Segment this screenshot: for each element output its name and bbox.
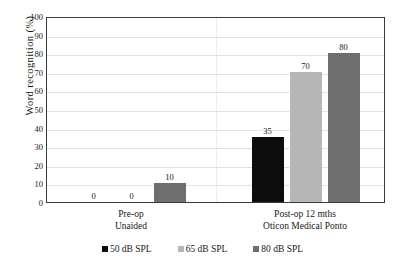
x-category-label-postop-line2: Oticon Medical Ponto [263,221,347,233]
y-axis-tick-70: 70 [1,69,43,78]
bar-80-db-spl-group0 [154,183,186,202]
legend-label: 80 dB SPL [261,244,303,254]
x-category-label-preop: Pre-op Unaided [115,209,147,232]
y-axis-tick-20: 20 [1,162,43,171]
x-category-label-preop-line2: Unaided [115,221,147,233]
y-axis-tick-80: 80 [1,50,43,59]
bar-50-db-spl-group1 [252,137,284,202]
x-category-label-postop-line1: Post-op 12 mths [263,209,347,221]
category-divider [216,18,217,202]
y-axis-tick-10: 10 [1,180,43,189]
y-axis-tick-100: 100 [1,13,43,22]
gridline-90 [47,37,384,38]
plot-inner: 0010357080 [47,18,384,202]
bar-value-label: 10 [165,173,174,182]
legend-item-65-db-spl[interactable]: 65 dB SPL [178,244,228,254]
x-category-label-preop-line1: Pre-op [115,209,147,221]
bar-65-db-spl-group1 [290,72,322,202]
legend-label: 50 dB SPL [110,244,152,254]
bar-value-label: 0 [129,192,133,201]
legend-label: 65 dB SPL [186,244,228,254]
legend-item-80-db-spl[interactable]: 80 dB SPL [253,244,303,254]
y-axis-tick-40: 40 [1,124,43,133]
legend-swatch-icon [253,246,259,252]
legend-swatch-icon [178,246,184,252]
bar-value-label: 70 [301,62,310,71]
y-axis-tick-60: 60 [1,87,43,96]
y-axis-tick-0: 0 [1,199,43,208]
bar-value-label: 35 [263,127,272,136]
legend-swatch-icon [102,246,108,252]
x-category-label-postop: Post-op 12 mths Oticon Medical Ponto [263,209,347,232]
y-axis-tick-labels: 1009080706050403020100 [0,17,43,203]
y-axis-tick-90: 90 [1,31,43,40]
word-recognition-bar-chart: Word recognition (%) 1009080706050403020… [0,0,405,269]
chart-legend: 50 dB SPL65 dB SPL80 dB SPL [0,244,405,254]
bar-value-label: 0 [91,192,95,201]
bar-value-label: 80 [339,43,348,52]
bar-80-db-spl-group1 [328,53,360,202]
y-axis-tick-30: 30 [1,143,43,152]
plot-area: 0010357080 [46,17,385,203]
y-axis-tick-50: 50 [1,106,43,115]
legend-item-50-db-spl[interactable]: 50 dB SPL [102,244,152,254]
